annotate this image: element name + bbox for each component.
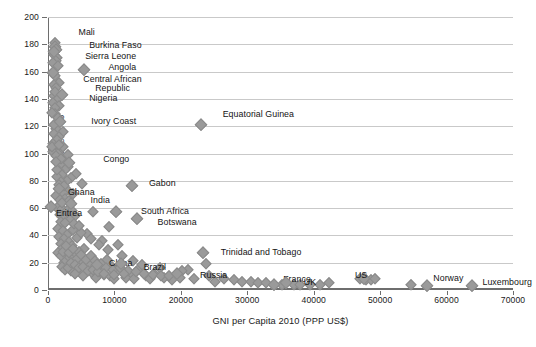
y-tick-label: 100: [24, 149, 39, 159]
point-annotation: UK: [304, 278, 316, 287]
y-tick-label: 20: [29, 258, 39, 268]
point-annotation: Nigeria: [89, 94, 117, 103]
y-tick-label: 80: [29, 176, 39, 186]
data-point-labeled: [420, 279, 433, 292]
data-point-labeled: [196, 247, 209, 260]
y-tick-label: 180: [24, 39, 39, 49]
y-tick: [42, 154, 47, 155]
y-tick: [42, 44, 47, 45]
x-tick-label: 30000: [235, 295, 259, 305]
gridline: [48, 99, 513, 100]
data-point-labeled: [465, 279, 478, 292]
x-tick-label: 60000: [434, 295, 458, 305]
data-point: [323, 277, 335, 289]
y-tick: [42, 263, 47, 264]
y-tick-label: 40: [29, 230, 39, 240]
point-annotation: Burkina Faso: [89, 41, 141, 50]
y-tick-label: 120: [24, 121, 39, 131]
y-tick: [42, 126, 47, 127]
x-tick-label: 20000: [169, 295, 193, 305]
data-point: [188, 273, 200, 285]
point-annotation: Eritrea: [56, 209, 82, 218]
x-tick-label: 40000: [302, 295, 326, 305]
point-annotation: Congo: [103, 155, 129, 164]
gridline: [48, 181, 513, 182]
x-tick-label: 10000: [102, 295, 126, 305]
y-tick: [42, 181, 47, 182]
x-axis-title: GNI per Capita 2010 (PPP US$): [48, 316, 513, 326]
y-tick-label: 140: [24, 94, 39, 104]
point-annotation: Ivory Coast: [91, 117, 136, 126]
point-annotation: Central African Republic: [83, 75, 143, 94]
data-point-labeled: [194, 118, 207, 131]
gridline: [48, 235, 513, 236]
y-tick: [42, 99, 47, 100]
y-tick: [42, 235, 47, 236]
point-annotation: Botswana: [158, 218, 197, 227]
gridline: [48, 17, 513, 18]
point-annotation: Brazil: [144, 263, 166, 272]
x-tick-label: 70000: [501, 295, 525, 305]
y-tick-label: 160: [24, 67, 39, 77]
point-annotation: South Africa: [141, 207, 189, 216]
point-annotation: Angola: [108, 63, 136, 72]
point-annotation: Trinidad and Tobago: [221, 248, 302, 257]
point-annotation: Luxembourg: [482, 278, 531, 287]
plot-area: 020406080100120140160180200 010000200003…: [48, 17, 513, 290]
y-tick: [42, 290, 47, 291]
y-tick: [42, 17, 47, 18]
x-tick-label: 50000: [368, 295, 392, 305]
y-tick-label: 200: [24, 12, 39, 22]
data-point: [103, 221, 115, 233]
data-point: [200, 258, 212, 270]
point-annotation: Gabon: [149, 179, 176, 188]
point-annotation: US: [355, 271, 367, 280]
y-tick-label: 60: [29, 203, 39, 213]
chart-figure: Under 5 Mortality Rate 2010 GNI per Capi…: [0, 0, 536, 347]
point-annotation: Mali: [79, 28, 95, 37]
point-annotation: Sierra Leone: [85, 52, 136, 61]
point-annotation: Norway: [433, 274, 463, 283]
point-annotation: Equatorial Guinea: [223, 110, 294, 119]
y-tick-label: 0: [34, 285, 39, 295]
point-annotation: India: [91, 196, 110, 205]
point-annotation: Russia: [200, 271, 227, 280]
x-tick-label: 0: [46, 295, 51, 305]
